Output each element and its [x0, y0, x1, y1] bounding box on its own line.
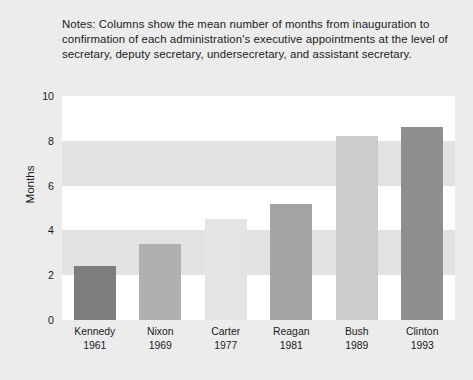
x-tick-year: 1989: [324, 339, 390, 353]
x-tick-name: Carter: [193, 325, 259, 339]
y-tick-label: 0: [24, 314, 54, 326]
x-tick-name: Reagan: [259, 325, 325, 339]
bar-reagan: [270, 204, 312, 320]
x-tick-label: Reagan1981: [259, 325, 325, 352]
chart-page: Notes: Columns show the mean number of m…: [0, 0, 473, 380]
y-tick-label: 8: [24, 135, 54, 147]
x-tick-year: 1981: [259, 339, 325, 353]
x-tick-label: Bush1989: [324, 325, 390, 352]
x-tick-label: Carter1977: [193, 325, 259, 352]
bar-nixon: [139, 244, 181, 320]
bar-carter: [205, 219, 247, 320]
x-tick-label: Kennedy1961: [62, 325, 128, 352]
x-tick-year: 1993: [390, 339, 456, 353]
x-tick-name: Nixon: [128, 325, 194, 339]
x-axis-ticks: Kennedy1961Nixon1969Carter1977Reagan1981…: [62, 325, 455, 365]
x-tick-year: 1961: [62, 339, 128, 353]
bar-series: [62, 96, 455, 320]
bar-clinton: [401, 127, 443, 320]
y-tick-label: 6: [24, 180, 54, 192]
x-tick-label: Nixon1969: [128, 325, 194, 352]
x-tick-name: Kennedy: [62, 325, 128, 339]
x-tick-name: Clinton: [390, 325, 456, 339]
plot-area: [62, 96, 455, 320]
x-tick-name: Bush: [324, 325, 390, 339]
y-tick-label: 2: [24, 269, 54, 281]
y-tick-label: 4: [24, 224, 54, 236]
x-tick-year: 1977: [193, 339, 259, 353]
y-tick-label: 10: [24, 90, 54, 102]
y-axis-ticks: 0246810: [22, 96, 54, 320]
x-tick-year: 1969: [128, 339, 194, 353]
bar-bush: [336, 136, 378, 320]
bar-kennedy: [74, 266, 116, 320]
x-tick-label: Clinton1993: [390, 325, 456, 352]
bar-chart: Months 0246810 Kennedy1961Nixon1969Carte…: [0, 0, 473, 380]
